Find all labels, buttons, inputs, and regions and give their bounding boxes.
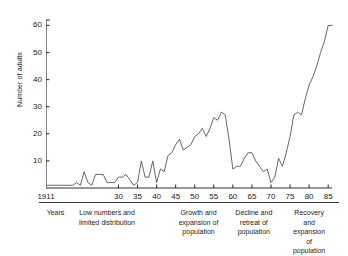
- period-underline: [275, 202, 339, 203]
- period-caption-line: limited distribution: [79, 218, 135, 228]
- x-tick-label: 80: [305, 192, 314, 201]
- data-line-number-of-adults: [46, 25, 332, 185]
- x-tick-label: 45: [171, 192, 180, 201]
- axis-lines: [46, 20, 332, 188]
- x-tick-label: 1911: [37, 192, 54, 201]
- x-tick-label: 70: [267, 192, 276, 201]
- period-caption: Years: [47, 208, 65, 218]
- y-tick-label: 20: [16, 130, 42, 138]
- period-caption-line: population: [179, 227, 219, 237]
- chart-svg: [46, 18, 334, 190]
- x-tick-label: 85: [324, 192, 333, 201]
- x-tick-label: 50: [190, 192, 199, 201]
- period-captions: YearsLow numbers andlimited distribution…: [0, 208, 348, 252]
- y-tick-label: 10: [16, 157, 42, 165]
- period-caption: Low numbers andlimited distribution: [79, 208, 135, 227]
- x-tick-label: 55: [209, 192, 218, 201]
- period-caption-line: expansion of: [290, 227, 329, 246]
- period-caption-line: Low numbers and: [79, 208, 135, 218]
- period-caption-line: Recovery and: [290, 208, 329, 227]
- axis-spines: [46, 20, 332, 188]
- x-tick-label: 40: [152, 192, 161, 201]
- x-tick-label: 30: [114, 192, 123, 201]
- period-caption-line: expansion of: [179, 218, 219, 228]
- period-caption: Decline andretreat ofpopulation: [235, 208, 272, 237]
- period-caption-line: Growth and: [179, 208, 219, 218]
- y-tick-label: 30: [16, 103, 42, 111]
- y-tick-label: 40: [16, 76, 42, 84]
- plot-area: [46, 18, 334, 190]
- period-caption-line: Decline and: [235, 208, 272, 218]
- x-tick-label: 60: [228, 192, 237, 201]
- period-caption-line: Years: [47, 208, 65, 218]
- y-tick-label: 60: [16, 21, 42, 29]
- x-tick-label: 35: [133, 192, 142, 201]
- period-caption: Growth andexpansion ofpopulation: [179, 208, 219, 237]
- y-tick-label: 50: [16, 49, 42, 57]
- x-tick-label: 65: [247, 192, 256, 201]
- axis-tick-marks: [46, 25, 328, 188]
- period-underlines: [0, 202, 348, 205]
- period-caption: Recovery andexpansion ofpopulation: [290, 208, 329, 256]
- period-caption-line: retreat of: [235, 218, 272, 228]
- period-caption-line: population: [235, 227, 272, 237]
- x-tick-label: 75: [286, 192, 295, 201]
- period-underline: [39, 202, 175, 203]
- period-caption-line: population: [290, 246, 329, 256]
